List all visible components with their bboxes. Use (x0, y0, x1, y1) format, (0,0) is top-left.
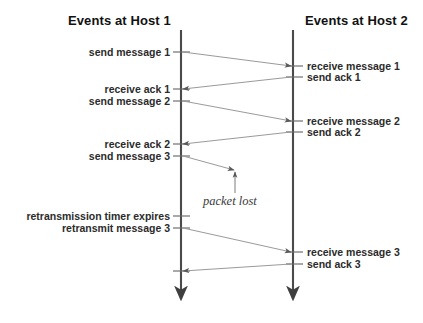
host1-title: Events at Host 1 (68, 13, 171, 28)
event-label-retransmission-timer-expires: retransmission timer expires (0, 211, 170, 222)
arrow-retransmit-message-3 (183, 228, 291, 252)
annotation-packet-lost: packet lost (203, 194, 257, 209)
arrow-ack-2 (183, 132, 291, 144)
arrow-message-3-lost (183, 156, 234, 170)
arrow-message-1 (183, 52, 291, 66)
event-label-receive-message-3: receive message 3 (307, 247, 400, 258)
event-label-send-message-3: send message 3 (0, 151, 170, 162)
arrow-message-2 (183, 101, 291, 121)
event-label-send-ack-1: send ack 1 (307, 72, 361, 83)
event-label-send-ack-2: send ack 2 (307, 127, 361, 138)
host2-title: Events at Host 2 (305, 13, 408, 28)
event-label-receive-ack-1: receive ack 1 (0, 84, 170, 95)
event-label-send-message-2: send message 2 (0, 96, 170, 107)
host2-ticks (286, 66, 303, 264)
event-label-send-message-1: send message 1 (0, 47, 170, 58)
arrow-ack-1 (183, 77, 291, 89)
sequence-diagram: Events at Host 1 Events at Host 2 send m… (0, 0, 423, 323)
arrow-ack-3 (183, 264, 291, 271)
event-label-send-ack-3: send ack 3 (307, 259, 361, 270)
event-label-receive-ack-2: receive ack 2 (0, 139, 170, 150)
event-label-retransmit-message-3: retransmit message 3 (0, 223, 170, 234)
